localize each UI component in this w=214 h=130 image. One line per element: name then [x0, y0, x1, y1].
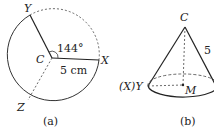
slant-label: 5 [204, 44, 211, 57]
base-radius-dashed [148, 85, 183, 86]
radius-label: 5 cm [60, 64, 88, 77]
caption-a: (a) [43, 115, 58, 128]
center-c-label: C [36, 53, 45, 66]
caption-b: (b) [180, 115, 196, 128]
figure-a: Y X Z C 144° 5 cm (a) [7, 2, 110, 128]
cone-left-edge [148, 27, 185, 86]
edge-point-label: (X)Y [119, 80, 144, 93]
diagram-canvas: Y X Z C 144° 5 cm (a) C M (X)Y 5 (b) [0, 0, 214, 130]
point-z-label: Z [16, 101, 25, 114]
cone-height-dashed [183, 27, 185, 85]
point-y-label: Y [24, 2, 33, 15]
radius-cy [30, 15, 52, 58]
base-ellipse-back [148, 74, 214, 86]
angle-label: 144° [57, 42, 84, 55]
apex-c-label: C [180, 11, 189, 24]
radius-cx [52, 58, 99, 60]
point-m-label: M [184, 84, 197, 97]
point-m-dot [182, 84, 184, 86]
figure-b: C M (X)Y 5 (b) [119, 11, 214, 128]
point-x-label: X [100, 54, 110, 67]
